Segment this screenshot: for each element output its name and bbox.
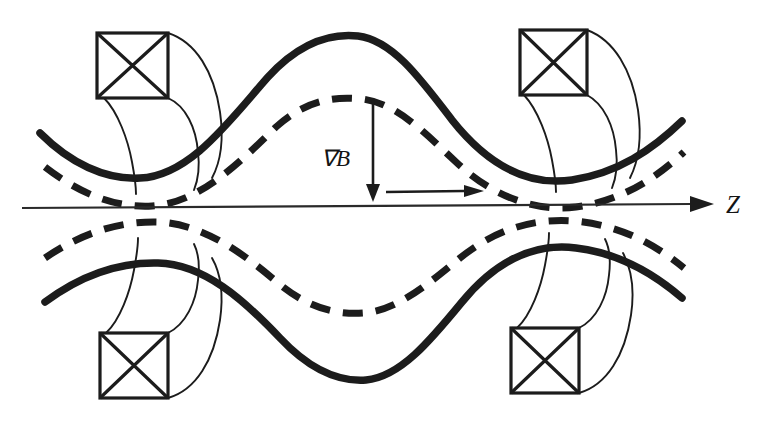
coil-cross-icon bbox=[511, 328, 579, 393]
grad-b-label: ∇B bbox=[321, 146, 350, 171]
coil-band-mid bbox=[168, 98, 199, 190]
z-axis-line bbox=[22, 204, 690, 208]
drift-arrowhead bbox=[464, 185, 484, 197]
upper-dashed-fieldline bbox=[45, 98, 684, 208]
z-axis-label: Z bbox=[726, 191, 741, 218]
drift-arrow-annotation bbox=[386, 185, 484, 197]
coil-band-inner bbox=[106, 238, 138, 333]
grad-b-annotation: ∇B bbox=[321, 100, 380, 202]
coil-cross-icon bbox=[100, 333, 168, 398]
coil-band-mid bbox=[168, 244, 199, 333]
coil-cross-icon bbox=[97, 33, 168, 98]
z-axis: Z bbox=[22, 191, 741, 218]
z-axis-arrowhead bbox=[690, 196, 714, 212]
drift-arrow-shaft bbox=[386, 191, 464, 192]
coil-top-left bbox=[97, 33, 222, 194]
grad-b-arrowhead bbox=[366, 184, 380, 202]
coil-cross-icon bbox=[520, 30, 587, 95]
figure-canvas: Z ∇B bbox=[0, 0, 764, 430]
magnetic-mirror-figure: Z ∇B bbox=[0, 0, 764, 430]
